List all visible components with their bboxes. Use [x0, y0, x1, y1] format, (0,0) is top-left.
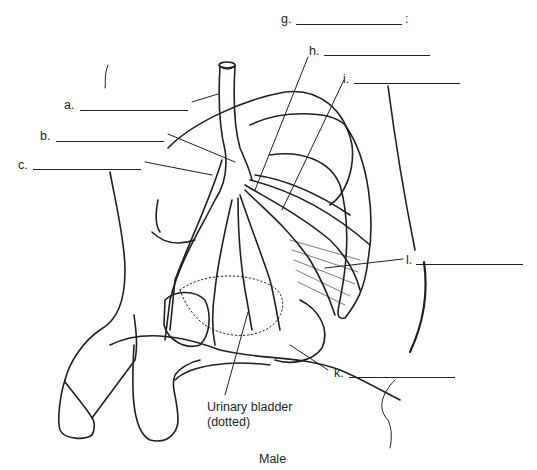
common-iliac-vessel	[165, 66, 252, 340]
label-h: h.	[309, 44, 319, 58]
label-l: l.	[406, 253, 412, 267]
penis-outline	[59, 315, 137, 438]
small-branch-2	[152, 232, 195, 243]
leader-l	[325, 259, 403, 268]
bladder-annotation: Urinary bladder (dotted)	[207, 400, 292, 430]
label-b: b.	[40, 129, 50, 143]
external-iliac-branch	[170, 160, 222, 330]
sacrum-outline	[250, 114, 371, 319]
label-c: c.	[18, 158, 28, 172]
nerve-bundle-4	[238, 198, 252, 330]
blank-l[interactable]	[416, 264, 523, 265]
label-g-colon: :	[405, 12, 408, 26]
scrotum-outline	[133, 345, 200, 441]
blank-k[interactable]	[349, 377, 455, 378]
blank-h[interactable]	[324, 55, 430, 56]
small-branch-1	[156, 200, 160, 232]
blank-b[interactable]	[56, 141, 164, 142]
abdomen-outline	[105, 65, 108, 88]
blank-g[interactable]	[296, 24, 402, 25]
leader-a	[192, 94, 218, 102]
leader-h	[255, 57, 308, 190]
diagram-title: Male	[259, 452, 286, 467]
bladder-annotation-line1: Urinary bladder	[207, 400, 292, 415]
nerve-bundle-5	[213, 200, 232, 345]
glans-outline	[65, 382, 92, 418]
buttock-outline	[410, 262, 426, 352]
leader-bladder	[225, 312, 248, 395]
nerve-bundle-7	[255, 175, 350, 215]
nerve-bundle-3	[240, 195, 280, 330]
thigh-front-outline	[65, 172, 125, 380]
bladder-annotation-line2: (dotted)	[207, 415, 292, 430]
blank-i[interactable]	[354, 83, 460, 84]
ilium-outline	[168, 92, 353, 205]
rectum-outline	[275, 300, 325, 362]
bladder-dotted	[180, 276, 283, 336]
gluteal-fold	[175, 363, 270, 380]
label-k: k.	[334, 366, 344, 380]
blank-c[interactable]	[33, 169, 141, 170]
blank-a[interactable]	[80, 110, 188, 111]
perineum-line	[110, 336, 400, 400]
nerve-bundle-1	[245, 185, 360, 290]
lower-back-outline	[382, 380, 395, 448]
label-i: i.	[343, 72, 349, 86]
back-outline	[388, 86, 415, 250]
label-g: g.	[281, 12, 291, 26]
leader-c	[145, 162, 212, 175]
vessel-cut-end	[219, 62, 235, 68]
muscle-fan	[290, 240, 360, 305]
label-a: a.	[64, 98, 74, 112]
